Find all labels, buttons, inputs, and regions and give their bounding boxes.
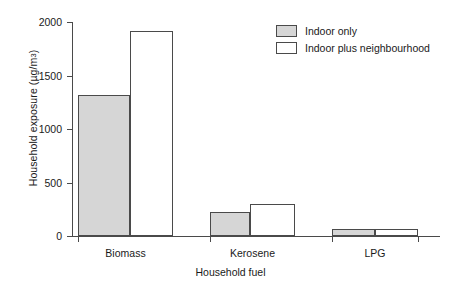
x-axis-title: Household fuel — [0, 266, 461, 278]
bar-kerosene-series0 — [210, 212, 250, 236]
y-tick-label: 0 — [24, 231, 62, 241]
y-axis-title-exponent: 3 — [29, 53, 38, 57]
bar-chart-figure: Household exposure (µg/m3) 0500100015002… — [0, 0, 461, 299]
x-tick-mark — [332, 237, 333, 242]
bar-kerosene-series1 — [250, 204, 295, 236]
bar-lpg-series0 — [332, 229, 375, 236]
legend-swatch-indoor-only — [276, 25, 297, 37]
legend-item-indoor-only: Indoor only — [276, 22, 430, 39]
legend-item-indoor-plus-neighbourhood: Indoor plus neighbourhood — [276, 39, 430, 56]
legend-swatch-indoor-plus-neighbourhood — [276, 42, 297, 54]
x-category-label-kerosene: Kerosene — [230, 247, 275, 259]
x-axis-line — [72, 236, 440, 237]
legend-label-indoor-plus-neighbourhood: Indoor plus neighbourhood — [305, 42, 430, 54]
bar-biomass-series1 — [130, 31, 173, 236]
x-category-label-biomass: Biomass — [105, 247, 145, 259]
bar-biomass-series0 — [78, 95, 130, 236]
x-tick-mark — [78, 237, 79, 242]
y-tick-label: 500 — [24, 178, 62, 188]
legend-label-indoor-only: Indoor only — [305, 25, 357, 37]
y-tick-label: 1500 — [24, 71, 62, 81]
chart-legend: Indoor only Indoor plus neighbourhood — [276, 22, 430, 56]
y-axis-title: Household exposure (µg/m3) — [22, 0, 44, 236]
x-tick-mark — [210, 237, 211, 242]
bar-lpg-series1 — [375, 229, 418, 236]
y-tick-label: 2000 — [24, 17, 62, 27]
x-category-label-lpg: LPG — [364, 247, 385, 259]
y-axis-title-suffix: ) — [27, 50, 39, 54]
x-tick-mark — [418, 237, 419, 242]
y-tick-label: 1000 — [24, 124, 62, 134]
